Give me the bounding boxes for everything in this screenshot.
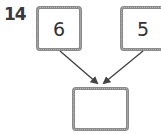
arrow-left-icon — [60, 51, 97, 83]
arrow-right-icon — [104, 51, 143, 83]
arrows — [0, 0, 161, 134]
